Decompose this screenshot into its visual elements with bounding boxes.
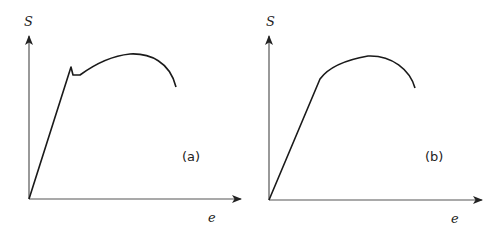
panel-b (269, 36, 482, 200)
x-axis-label-b: e (451, 212, 459, 225)
panel-tag-a: (a) (182, 150, 200, 163)
curve-b (269, 56, 415, 200)
stress-strain-diagrams (0, 0, 504, 234)
y-axis-label-b: S (266, 15, 275, 28)
panel-tag-b: (b) (425, 150, 443, 163)
panel-a (29, 36, 241, 199)
curve-a (29, 54, 176, 199)
x-axis-label-a: e (208, 211, 216, 224)
y-axis-label-a: S (24, 15, 33, 28)
